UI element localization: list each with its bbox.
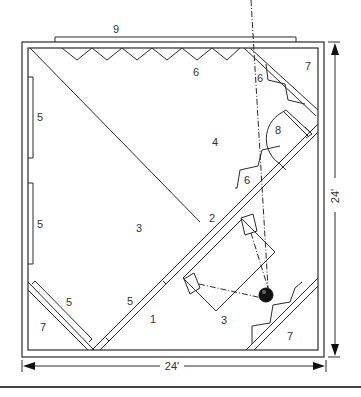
- main-diagonal-panel-5: [106, 281, 166, 341]
- speaker-left: [184, 273, 200, 294]
- label-5-diagonal: 5: [127, 295, 133, 307]
- label-6-top-right: 6: [257, 72, 263, 84]
- arrow-right-icon: [313, 362, 325, 370]
- arrow-up-icon: [331, 43, 339, 55]
- label-5-left-lower: 5: [37, 218, 43, 230]
- left-panel-5-lower: [28, 183, 33, 264]
- listener-position: [259, 288, 273, 302]
- label-6-top: 6: [193, 66, 199, 78]
- sightline-right: [251, 0, 268, 288]
- door-8-leaf: [283, 111, 308, 136]
- label-7-top-right: 7: [305, 60, 311, 72]
- left-panel-5-upper: [28, 77, 33, 158]
- top-diffuser-zigzag: [62, 48, 240, 60]
- label-7-bottom-right: 7: [287, 330, 293, 342]
- width-dimension-label: 24': [165, 360, 179, 372]
- label-5-bottom-left: 5: [66, 296, 72, 308]
- label-4: 4: [212, 136, 218, 148]
- label-3-main: 3: [136, 222, 142, 234]
- element-9-bar: [55, 37, 296, 42]
- panel-2-line-a: [92, 124, 318, 350]
- arrow-down-icon: [331, 344, 339, 356]
- corner-trap-bottom-left-b: [28, 290, 88, 350]
- bottom-rule: [0, 386, 361, 388]
- floor-plan-diagram: 24' 24' 9 6 6 7 8 4 6 2 3 3 5 5 5 5 1 7 …: [0, 0, 361, 397]
- corner-trap-bottom-right-a: [246, 278, 318, 350]
- label-6-panel: 6: [244, 174, 250, 186]
- outer-wall: [22, 42, 324, 357]
- label-8: 8: [275, 124, 281, 136]
- height-dimension-label: 24': [329, 189, 341, 203]
- top-right-diffusers: [266, 64, 305, 104]
- arrow-left-icon: [23, 362, 35, 370]
- label-2: 2: [209, 212, 215, 224]
- label-3-desk: 3: [221, 314, 227, 326]
- speaker-right: [241, 214, 257, 235]
- door-8-swing: [266, 113, 281, 164]
- corner-trap-bottom-left-a: [28, 282, 94, 350]
- diagonal-divider: [30, 48, 200, 222]
- sightline-right-2: [251, 233, 268, 288]
- label-9: 9: [113, 23, 119, 35]
- label-1: 1: [150, 313, 156, 325]
- label-5-left-upper: 5: [37, 111, 43, 123]
- listener-highlight: [262, 290, 266, 294]
- label-7-bottom-left: 7: [40, 321, 46, 333]
